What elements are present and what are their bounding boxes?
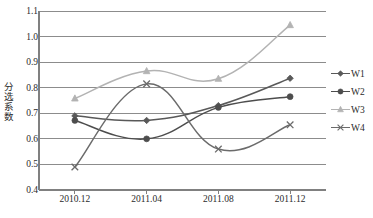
legend-item-w3[interactable]: W3 [331, 101, 373, 119]
gridlines [39, 11, 326, 164]
data-point-circle-marker [215, 105, 221, 111]
plot-area [0, 0, 373, 218]
data-point-diamond-marker [338, 71, 344, 77]
series-w2 [72, 94, 293, 142]
data-point-circle-marker [338, 89, 343, 94]
data-point-cross-marker [338, 125, 344, 131]
data-point-circle-marker [72, 118, 78, 124]
legend-swatch-triangle-icon [331, 103, 350, 117]
legend-marker-cross-icon [337, 124, 344, 131]
axis-frame [39, 11, 326, 190]
legend-marker-diamond-icon [337, 70, 344, 77]
legend-item-w4[interactable]: W4 [331, 119, 373, 137]
legend-swatch-circle-icon [331, 85, 350, 99]
legend-item-w2[interactable]: W2 [331, 83, 373, 101]
x-tick-label: 2011.12 [260, 193, 320, 205]
data-point-cross-marker [287, 121, 294, 128]
legend-swatch-cross-icon [331, 121, 350, 135]
legend: W1W2W3W4 [331, 65, 373, 137]
x-axis-tick-labels: 2010.122011.042011.082011.12 [0, 193, 373, 213]
data-point-circle-marker [287, 94, 293, 100]
legend-label: W1 [350, 69, 365, 79]
legend-marker-triangle-icon [337, 106, 344, 113]
x-tick-label: 2010.12 [45, 193, 105, 205]
data-point-circle-marker [144, 136, 150, 142]
data-point-diamond-marker [287, 75, 293, 81]
legend-label: W2 [350, 87, 365, 97]
data-series-layer [72, 21, 294, 170]
legend-label: W3 [350, 105, 365, 115]
legend-swatch-diamond-icon [331, 67, 350, 81]
series-w3 [72, 21, 294, 101]
line-chart: 分选系数 0.40.50.60.70.80.91.01.1 2010.12201… [0, 0, 373, 218]
legend-item-w1[interactable]: W1 [331, 65, 373, 83]
x-tick-label: 2011.04 [117, 193, 177, 205]
data-point-triangle-marker [287, 21, 294, 27]
data-point-triangle-marker [338, 106, 344, 111]
x-tick-label: 2011.08 [188, 193, 248, 205]
legend-label: W4 [350, 123, 365, 133]
data-point-diamond-marker [143, 117, 149, 123]
legend-marker-circle-icon [337, 88, 344, 95]
